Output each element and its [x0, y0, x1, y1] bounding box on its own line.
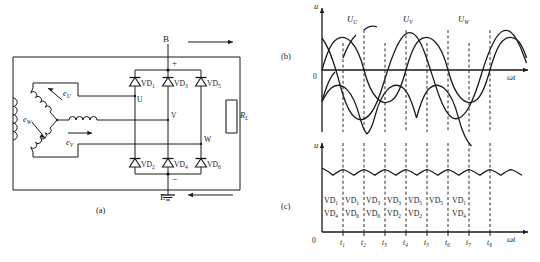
diode-label-vd2: VD2	[141, 160, 155, 170]
diode-vd6	[196, 159, 207, 168]
conduction-cell-lower-2: VD6	[345, 209, 359, 219]
xtick-label-t7: t7	[466, 238, 471, 248]
panel-c-axes: u ωt 0	[312, 140, 528, 245]
emf-label-u: eU	[63, 88, 72, 99]
diode-vd2	[130, 159, 141, 168]
panel-b-axes: u ωt 0	[313, 1, 528, 132]
load-resistor	[226, 100, 237, 133]
figure-canvas: eU eW eV VD1	[0, 0, 540, 262]
conduction-cell-upper-6: VD5	[429, 196, 443, 206]
phase-label-w: W	[204, 135, 212, 144]
panel-a-circuit: eU eW eV VD1	[13, 34, 248, 215]
panel-b-curves	[322, 26, 527, 146]
panel-c-x-axis-label: ωt	[507, 234, 516, 244]
node-u	[134, 95, 136, 97]
panel-c-output: (c) u ωt 0 VD1	[281, 140, 528, 248]
panel-b-x-axis-label: ωt	[507, 72, 516, 82]
phase-label-u: U	[137, 95, 143, 104]
conduction-cell-upper-7: VD1	[452, 196, 466, 206]
diode-label-vd3: VD3	[174, 79, 188, 89]
conduction-sequence-lower: VD4 VD6 VD6 VD2 VD2 VD4	[324, 209, 466, 219]
series-label-u: UU	[347, 14, 358, 25]
diode-label-vd5: VD5	[207, 79, 221, 89]
current-arrow-bottom	[188, 193, 233, 198]
panel-label-c: (c)	[281, 201, 291, 211]
conduction-cell-lower-1: VD4	[324, 209, 338, 219]
diode-vd1	[130, 78, 141, 87]
current-arrow-top	[188, 40, 233, 45]
node-w	[200, 143, 202, 145]
secondary-winding-v	[57, 117, 168, 120]
emf-arrow-v	[68, 131, 92, 135]
panel-c-zero-label: 0	[312, 236, 316, 245]
polarity-plus: +	[172, 58, 177, 68]
conduction-cell-upper-2: VD1	[345, 196, 359, 206]
polarity-minus: −	[172, 174, 177, 184]
xtick-label-t5: t5	[424, 238, 429, 248]
conduction-cell-upper-4: VD3	[387, 196, 401, 206]
conduction-cell-lower-5: VD2	[408, 209, 422, 219]
figure-root: eU eW eV VD1	[0, 0, 540, 262]
diode-label-vd6: VD6	[207, 160, 221, 170]
diode-label-vd4: VD4	[174, 160, 188, 170]
primary-winding-coil	[13, 98, 17, 140]
series-label-v: UV	[403, 14, 413, 25]
diode-vd3	[163, 78, 174, 87]
emf-label-v: eV	[66, 137, 74, 148]
panel-label-a: (a)	[96, 205, 106, 215]
conduction-cell-lower-7: VD4	[452, 209, 466, 219]
xtick-label-t2: t2	[361, 238, 366, 248]
secondary-winding-w	[31, 120, 201, 157]
secondary-winding-u	[31, 83, 135, 120]
panel-b-y-axis-label: u	[314, 1, 318, 11]
panel-b-zero-label: 0	[313, 72, 317, 81]
conduction-cell-upper-5: VD5	[408, 196, 422, 206]
xtick-label-t4: t4	[403, 238, 408, 248]
load-resistor-label: RL	[239, 110, 248, 121]
diode-label-vd1: VD1	[141, 79, 155, 89]
node-positive	[166, 68, 169, 71]
panel-label-b: (b)	[281, 51, 291, 61]
conduction-cell-upper-1: VD1	[324, 196, 338, 206]
emf-arrow-u	[48, 88, 62, 100]
panel-b-waveforms: (b) u ωt 0	[281, 1, 528, 146]
diode-vd4	[163, 159, 174, 168]
conduction-sequence-upper: VD1 VD1 VD3 VD3 VD5 VD5 VD1	[324, 196, 466, 206]
emf-arrow-w	[32, 122, 45, 138]
curve-v-phase-upper	[322, 26, 377, 101]
conduction-cell-lower-3: VD6	[366, 209, 380, 219]
emf-label-w: eW	[23, 114, 33, 125]
xtick-label-t1: t1	[340, 238, 345, 248]
series-label-w: UW	[458, 14, 470, 25]
diode-vd5	[196, 78, 207, 87]
xtick-label-t3: t3	[382, 238, 387, 248]
output-ripple-curve	[322, 168, 522, 175]
node-v	[167, 119, 169, 121]
terminal-label-b: B	[163, 34, 169, 44]
xtick-label-t6: t6	[445, 238, 450, 248]
panel-c-commutation-lines	[343, 143, 490, 232]
node-negative	[166, 172, 169, 175]
conduction-cell-lower-4: VD2	[387, 209, 401, 219]
xtick-label-t8: t8	[487, 238, 492, 248]
conduction-cell-upper-3: VD3	[366, 196, 380, 206]
panel-c-xticks: t1 t2 t3 t4 t5 t6 t7 t8	[340, 232, 492, 248]
phase-label-v: V	[171, 111, 177, 120]
panel-c-y-axis-label: u	[314, 140, 318, 150]
